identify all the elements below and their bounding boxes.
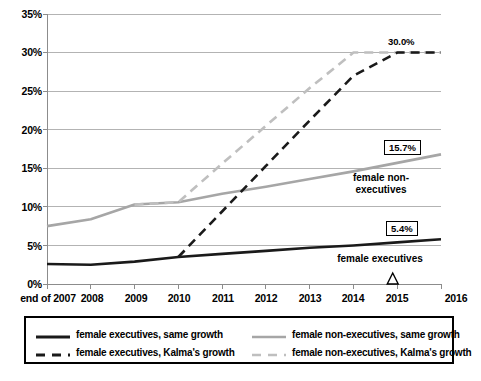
legend-label-nonexec-kalma: female non-executives, Kalma's growth [292, 347, 471, 358]
legend-label-nonexec-same: female non-executives, same growth [292, 329, 460, 340]
series-label-nonexecutives: female non- executives [326, 172, 436, 196]
legend-swatch-exec-same [34, 334, 72, 340]
annotation-nonexec-value: 15.7% [384, 140, 421, 155]
legend-swatch-exec-kalma [34, 352, 72, 358]
legend-swatch-nonexec-kalma [250, 352, 288, 358]
triangle-marker [387, 273, 398, 284]
chart-container: 35% 30% 25% 20% 15% 10% 5% 0% end of 200… [0, 0, 481, 381]
series-label-nonexecutives-line2: executives [355, 184, 406, 195]
series-label-executives: female executives [320, 253, 440, 265]
annotation-exec-value: 5.4% [386, 221, 418, 236]
legend-label-exec-kalma: female executives, Kalma's growth [76, 347, 235, 358]
legend-label-exec-same: female executives, same growth [76, 329, 223, 340]
annotation-peak-value: 30.0% [388, 36, 414, 47]
series-label-nonexecutives-line1: female non- [353, 172, 409, 183]
legend: female executives, same growth female no… [24, 316, 454, 364]
legend-swatch-nonexec-same [250, 334, 288, 340]
